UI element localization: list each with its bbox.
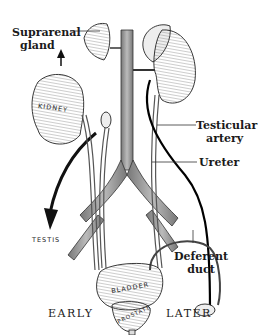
label-suprarenal-gland: Suprarenal gland — [12, 26, 81, 52]
label-testicular-artery: Testicular artery — [196, 119, 257, 145]
label-testis: TESTIS — [32, 236, 60, 244]
caption-early: EARLY — [48, 307, 94, 320]
label-ureter: Ureter — [199, 156, 239, 169]
caption-later: LATER — [166, 307, 212, 320]
gonad-early — [101, 112, 111, 128]
suprarenal-gland-left — [84, 23, 110, 60]
label-deferent-duct: Deferent duct — [174, 250, 228, 276]
kidney-right — [154, 30, 196, 103]
